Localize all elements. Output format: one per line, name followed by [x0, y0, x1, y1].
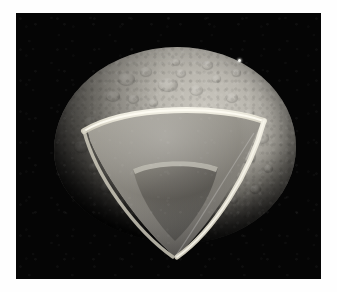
figure-root: Cutaway view of a small icy satellite	[0, 0, 337, 292]
interior-shading	[87, 110, 261, 257]
figure-title: Cutaway view of a small icy satellite	[0, 0, 1, 1]
space-background-plate	[16, 13, 321, 279]
cutaway-svg	[78, 107, 270, 257]
bright-speck	[238, 59, 241, 62]
planetary-body	[54, 47, 296, 251]
cutaway-wedge	[78, 107, 270, 257]
